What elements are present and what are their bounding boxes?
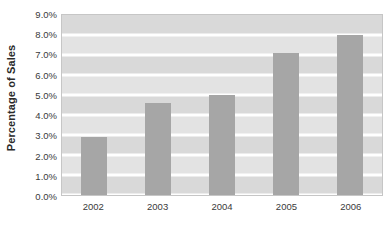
bar-slot <box>318 15 382 195</box>
x-axis-tick-label: 2004 <box>190 198 254 216</box>
bar-chart-figure: Percentage of Sales 0.0%1.0%2.0%3.0%4.0%… <box>0 0 392 233</box>
y-axis-tick-label: 0.0% <box>35 191 57 202</box>
y-axis-tick-label: 4.0% <box>35 110 57 121</box>
bar-slot <box>126 15 190 195</box>
bar-2006[interactable] <box>337 35 363 195</box>
bar-2003[interactable] <box>145 103 171 195</box>
y-axis-tick-label: 3.0% <box>35 130 57 141</box>
bar-2002[interactable] <box>81 137 107 195</box>
x-axis-tick-label: 2003 <box>125 198 189 216</box>
bar-slot <box>190 15 254 195</box>
bar-slot <box>62 15 126 195</box>
bar-2004[interactable] <box>209 95 235 195</box>
y-axis-title-label: Percentage of Sales <box>5 45 17 151</box>
bar-slot <box>254 15 318 195</box>
y-axis-title: Percentage of Sales <box>0 0 22 196</box>
y-axis-tick-label: 8.0% <box>35 29 57 40</box>
y-axis-tick-label: 5.0% <box>35 89 57 100</box>
x-axis-tick-label: 2005 <box>254 198 318 216</box>
y-axis-tick-label-group: 0.0%1.0%2.0%3.0%4.0%5.0%6.0%7.0%8.0%9.0% <box>22 14 60 196</box>
y-axis-tick-label: 6.0% <box>35 69 57 80</box>
x-axis-tick-label: 2006 <box>319 198 383 216</box>
y-axis-tick-label: 9.0% <box>35 9 57 20</box>
bar-2005[interactable] <box>273 53 299 195</box>
plot-area <box>61 14 383 196</box>
x-axis-tick-label: 2002 <box>61 198 125 216</box>
y-axis-tick-label: 2.0% <box>35 150 57 161</box>
bar-series-group <box>62 15 382 195</box>
y-axis-tick-label: 1.0% <box>35 170 57 181</box>
y-axis-tick-label: 7.0% <box>35 49 57 60</box>
x-axis-tick-label-group: 20022003200420052006 <box>61 198 383 216</box>
